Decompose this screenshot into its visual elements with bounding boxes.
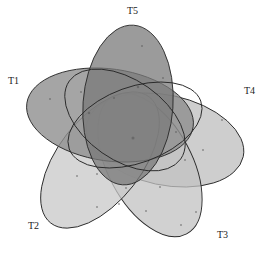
set-label-t5: T5: [127, 5, 138, 16]
venn-diagram: T5 T1 T4 T2 T3: [0, 0, 263, 255]
set-label-t3: T3: [217, 229, 228, 240]
set-label-t4: T4: [244, 85, 255, 96]
set-label-t1: T1: [8, 75, 19, 86]
set-label-t2: T2: [28, 220, 39, 231]
